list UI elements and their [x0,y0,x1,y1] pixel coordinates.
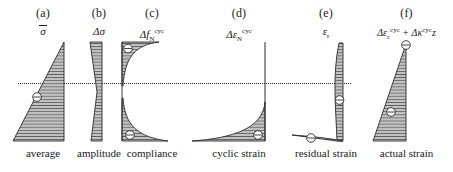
panel-d-label: (d) [186,6,292,20]
panel-f-profile [360,40,453,144]
panel-e-caption: residual strain [286,147,366,160]
panel-c-profile [112,40,192,144]
panel-a-marker [33,93,42,102]
panel-d-profile [186,40,292,144]
panel-e-marker-mid [335,96,344,105]
panel-e-label: (e) [286,6,366,20]
panel-e-marker-bottom [307,134,316,143]
panel-c-marker-bottom [126,131,135,140]
panel-f-caption: actual strain [360,147,453,160]
panel-d-caption: cyclic strain [186,147,292,160]
figure-panel-row: (a) σ average (b) Δσ [0,0,453,172]
panel-f-label: (f) [360,6,453,20]
panel-c-label: (c) [112,6,192,20]
panel-c: (c) ΔfNcyc compliance [112,0,192,172]
panel-d: (d) ΔεNcyc cyclic strain [186,0,292,172]
panel-f-marker-mid [387,108,396,117]
panel-d-marker [254,131,263,140]
panel-e-profile [286,40,366,144]
panel-f-marker-top [402,41,411,50]
panel-e: (e) εr residual strain [286,0,366,172]
panel-c-marker-top [124,44,133,53]
panel-f: (f) Δεccyc + Δκcycz actual strain [360,0,453,172]
panel-c-caption: compliance [112,147,192,160]
